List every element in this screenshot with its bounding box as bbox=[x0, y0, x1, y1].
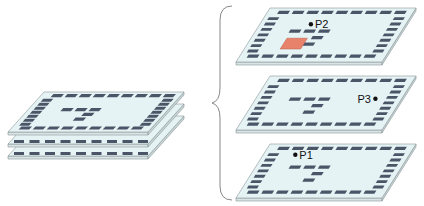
stacked-layers bbox=[8, 92, 184, 159]
point-p2 bbox=[309, 22, 313, 26]
label-p2: P2 bbox=[315, 18, 328, 30]
curly-brace bbox=[212, 6, 232, 200]
layer-diagram: P2P3P1 bbox=[0, 0, 424, 206]
layer-bottom: P1 bbox=[236, 144, 416, 201]
point-p3 bbox=[373, 96, 377, 100]
layer-top: P2 bbox=[236, 8, 416, 65]
layer-middle: P3 bbox=[236, 76, 416, 133]
point-p1 bbox=[293, 153, 297, 157]
label-p1: P1 bbox=[299, 149, 312, 161]
label-p3: P3 bbox=[357, 93, 370, 105]
